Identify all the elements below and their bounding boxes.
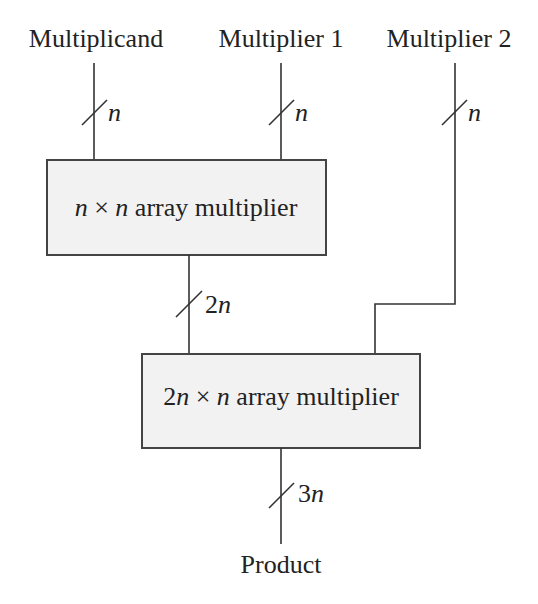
block-1-n: n bbox=[75, 193, 88, 222]
block-1-label: n × n array multiplier bbox=[75, 193, 298, 222]
times-symbol: × bbox=[94, 193, 109, 222]
bus-width-intermediate: 2n bbox=[205, 290, 231, 319]
block-1-operand: n bbox=[115, 193, 128, 222]
block-2-rest: array multiplier bbox=[236, 382, 399, 411]
wire-multiplier-2 bbox=[375, 63, 455, 354]
block-2-n: n bbox=[176, 382, 189, 411]
block-1-rest: array multiplier bbox=[135, 193, 298, 222]
block-2-num: 2 bbox=[163, 382, 176, 411]
bus-width-multiplier-1: n bbox=[295, 98, 308, 127]
block-2-label: 2n × n array multiplier bbox=[163, 382, 399, 411]
input-label-multiplicand: Multiplicand bbox=[29, 24, 163, 53]
input-label-multiplier-2: Multiplier 2 bbox=[387, 24, 512, 53]
times-symbol: × bbox=[196, 382, 211, 411]
array-multiplier-diagram: Multiplicand Multiplier 1 Multiplier 2 n… bbox=[0, 0, 538, 604]
input-label-multiplier-1: Multiplier 1 bbox=[219, 24, 344, 53]
bus-width-product: 3n bbox=[298, 479, 324, 508]
block-2-operand: n bbox=[217, 382, 230, 411]
bus-width-multiplier-2: n bbox=[468, 98, 481, 127]
bus-width-multiplicand: n bbox=[108, 98, 121, 127]
output-label-product: Product bbox=[241, 550, 323, 579]
